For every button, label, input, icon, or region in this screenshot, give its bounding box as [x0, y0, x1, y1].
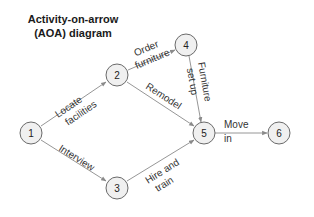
aoa-diagram: Locate facilities Interview Order furnit… [0, 0, 314, 217]
node-5: 5 [193, 122, 215, 144]
label-furniture-set-up: Furniture set up [184, 61, 214, 105]
svg-text:Interview: Interview [57, 142, 97, 173]
label-remodel: Remodel [144, 80, 184, 111]
label-order-furniture: Order furniture [128, 35, 171, 71]
label-interview: Interview [57, 142, 97, 173]
node-1: 1 [20, 122, 42, 144]
svg-text:1: 1 [28, 128, 34, 139]
label-move-in: Move in [224, 119, 249, 144]
svg-text:3: 3 [114, 183, 120, 194]
svg-text:5: 5 [201, 128, 207, 139]
svg-text:4: 4 [183, 40, 189, 51]
svg-text:in: in [224, 133, 232, 144]
svg-text:Remodel: Remodel [144, 80, 184, 111]
svg-text:2: 2 [114, 70, 120, 81]
svg-text:6: 6 [276, 128, 282, 139]
node-2: 2 [106, 64, 128, 86]
node-6: 6 [268, 122, 290, 144]
node-4: 4 [175, 34, 197, 56]
node-3: 3 [106, 177, 128, 199]
label-locate-facilities: Locate facilities [53, 88, 99, 129]
svg-text:Move: Move [224, 119, 249, 130]
label-hire-and-train: Hire and train [143, 156, 187, 196]
